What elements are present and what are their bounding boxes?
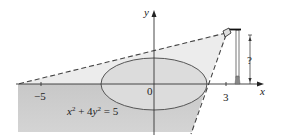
- lamp-post: [223, 28, 241, 84]
- lamp-base-icon: [235, 76, 240, 84]
- y-axis-label: y: [143, 6, 149, 18]
- tick-label-neg5: −5: [34, 90, 46, 102]
- tick-label-3: 3: [223, 91, 229, 103]
- diagram-canvas: ? y x −5 0 3 x2 + 4y2 = 5: [0, 0, 281, 140]
- y-axis-arrow-icon: [152, 10, 157, 17]
- tick-label-0: 0: [147, 85, 153, 97]
- x-axis-label: x: [259, 85, 265, 97]
- lamp-head-icon: [223, 28, 231, 37]
- height-label: ?: [247, 54, 252, 66]
